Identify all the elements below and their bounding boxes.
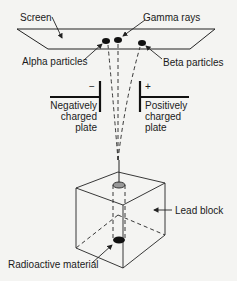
negative-sign: − <box>89 81 95 92</box>
gamma-dot <box>114 37 122 43</box>
positive-plate-label: Positively charged plate <box>145 100 195 133</box>
alpha-label: Alpha particles <box>22 56 88 67</box>
beta-label: Beta particles <box>163 57 224 68</box>
beta-arrow <box>146 46 162 59</box>
alpha-dot <box>102 38 110 44</box>
alpha-path <box>108 45 118 160</box>
beta-path <box>118 47 140 160</box>
negative-plate-label: Negatively charged plate <box>47 100 97 133</box>
lead-block-label: Lead block <box>175 205 223 216</box>
beta-dot <box>138 40 146 46</box>
screen-arrow <box>52 17 62 38</box>
radioactive-material <box>113 237 125 244</box>
positive-sign: + <box>145 81 151 92</box>
gamma-arrow <box>123 20 145 36</box>
radiation-deflection-diagram <box>0 0 237 281</box>
screen-label: Screen <box>20 12 52 23</box>
gamma-label: Gamma rays <box>143 12 200 23</box>
radioactive-label: Radioactive material <box>8 259 99 270</box>
